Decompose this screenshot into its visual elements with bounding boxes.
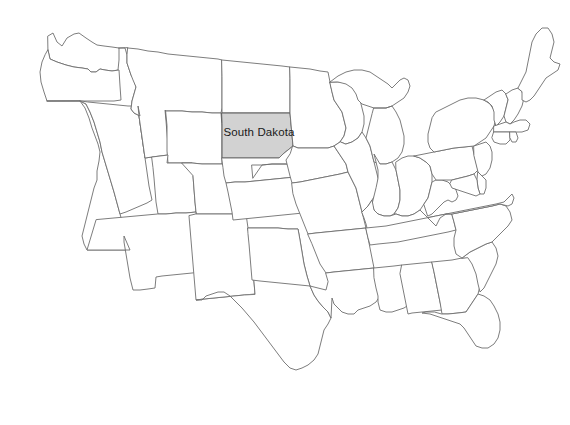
us-map-container: WashingtonOregonCaliforniaNevadaIdahoMon… xyxy=(0,0,570,425)
state-connecticut[interactable]: Connecticut xyxy=(492,132,510,144)
state-new-mexico[interactable]: New Mexico xyxy=(189,214,255,300)
state-labels-layer: South Dakota xyxy=(224,126,295,138)
state-north-dakota[interactable]: North Dakota xyxy=(222,60,290,113)
states-layer: WashingtonOregonCaliforniaNevadaIdahoMon… xyxy=(40,28,560,370)
state-maine[interactable]: Maine xyxy=(518,28,560,102)
state-arizona[interactable]: Arizona xyxy=(87,212,201,290)
state-wyoming[interactable]: Wyoming xyxy=(166,111,222,164)
state-arkansas[interactable]: Arkansas xyxy=(308,228,374,273)
state-label-south-dakota: South Dakota xyxy=(224,126,295,138)
us-map: WashingtonOregonCaliforniaNevadaIdahoMon… xyxy=(0,0,570,425)
state-new-hampshire[interactable]: New Hampshire xyxy=(504,88,524,124)
state-oklahoma[interactable]: Oklahoma xyxy=(248,228,310,286)
state-rhode-island[interactable]: Rhode Island xyxy=(510,132,518,142)
